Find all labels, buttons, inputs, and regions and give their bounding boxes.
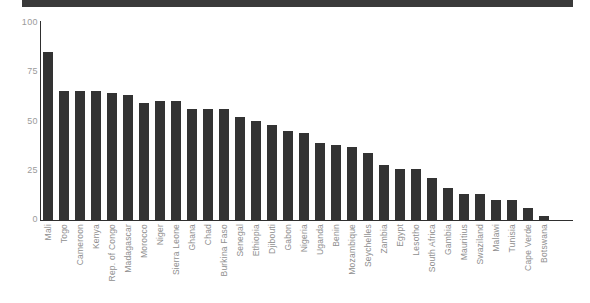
x-label-cell: Ghana [187,224,203,302]
x-axis-label: Malawi [491,224,501,252]
bar[interactable] [235,117,245,220]
bar[interactable] [475,194,485,220]
y-tick-label-75: 75 [4,67,38,76]
x-axis-label: Senegal [235,224,245,257]
bar[interactable] [155,101,165,220]
x-axis-label: South Africa [427,224,437,272]
x-axis-label: Chad [203,224,213,245]
x-axis-label: Benin [331,224,341,247]
bar[interactable] [331,145,341,220]
bar-cell [443,22,459,220]
bar-cell [347,22,363,220]
bar-cell [139,22,155,220]
x-label-cell: Togo [59,224,75,302]
x-label-cell: Tunisia [507,224,523,302]
x-label-cell: Mauritius [459,224,475,302]
bar[interactable] [75,91,85,220]
bar-cell [267,22,283,220]
bar-cell [187,22,203,220]
bar[interactable] [507,200,517,220]
x-label-cell: Niger [155,224,171,302]
bar-cell [43,22,59,220]
bar[interactable] [203,109,213,220]
x-axis-label: Mauritius [459,224,469,260]
y-tick-label-25: 25 [4,166,38,175]
bar-cell [379,22,395,220]
x-axis-label: Lesotho [411,224,421,256]
bar[interactable] [491,200,501,220]
bar[interactable] [523,208,533,220]
bar-cell [507,22,523,220]
x-axis-label: Madagascar [123,224,133,273]
x-label-cell: Benin [331,224,347,302]
y-tick-label-50: 50 [4,117,38,126]
bar[interactable] [283,131,293,220]
x-axis-label: Morocco [139,224,149,258]
x-label-cell: Ethiopia [251,224,267,302]
bar-cell [363,22,379,220]
bar-cell [59,22,75,220]
bar-cell [75,22,91,220]
x-label-cell: Egypt [395,224,411,302]
bar[interactable] [347,147,357,220]
bar[interactable] [315,143,325,220]
x-axis-label: Uganda [315,224,325,255]
bar[interactable] [139,103,149,220]
x-label-cell: Chad [203,224,219,302]
bar[interactable] [171,101,181,220]
x-label-cell: Malawi [491,224,507,302]
x-axis-label: Burkina Faso [219,224,229,276]
x-label-cell: Morocco [139,224,155,302]
bar[interactable] [539,216,549,220]
x-axis-label: Mozambique [347,224,357,275]
bar-series [43,22,575,220]
bar[interactable] [395,169,405,220]
bar[interactable] [411,169,421,220]
bar[interactable] [251,121,261,220]
x-label-cell: Zambia [379,224,395,302]
bar[interactable] [379,165,389,220]
bar-cell [411,22,427,220]
x-axis-label: Togo [59,224,69,243]
bar-cell [427,22,443,220]
bar[interactable] [123,95,133,220]
x-axis-label: Swaziland [475,224,485,265]
bar-chart: 100 75 50 25 0 MaliTogoCameroonKenyaRep.… [0,0,590,303]
bar-cell [331,22,347,220]
x-label-cell: Burkina Faso [219,224,235,302]
x-label-cell: Cameroon [75,224,91,302]
x-axis-label: Mali [43,224,53,240]
x-label-cell: Lesotho [411,224,427,302]
bar[interactable] [187,109,197,220]
x-axis-label: Rep. of Congo [107,224,117,281]
y-tick-label-0: 0 [4,215,38,224]
bar-cell [539,22,555,220]
x-axis-label: Zambia [379,224,389,254]
x-axis-category-labels: MaliTogoCameroonKenyaRep. of CongoMadaga… [43,224,575,302]
bar[interactable] [363,153,373,220]
x-axis-label: Ghana [187,224,197,251]
header-banner [22,0,573,7]
bar[interactable] [59,91,69,220]
bar[interactable] [91,91,101,220]
bar-cell [475,22,491,220]
bar[interactable] [43,52,53,220]
x-label-cell: Rep. of Congo [107,224,123,302]
x-axis-label: Sierra Leone [171,224,181,275]
bar-cell [251,22,267,220]
bar[interactable] [107,93,117,220]
bar-cell [459,22,475,220]
bar-cell [395,22,411,220]
bar[interactable] [219,109,229,220]
x-label-cell: Uganda [315,224,331,302]
bar[interactable] [427,178,437,220]
bar-cell [235,22,251,220]
bar-cell [155,22,171,220]
x-label-cell: Cape Verde [523,224,539,302]
bar[interactable] [443,188,453,220]
bar-cell [299,22,315,220]
bar[interactable] [459,194,469,220]
bar[interactable] [267,125,277,220]
x-label-cell: Seychelles [363,224,379,302]
bar[interactable] [299,133,309,220]
